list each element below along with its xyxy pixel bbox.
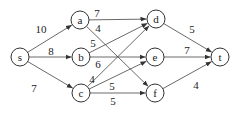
node-d: d xyxy=(147,10,165,28)
edge-capacity-label-c-d: 4 xyxy=(89,73,95,85)
edge-capacity-label-d-t: 5 xyxy=(189,23,195,35)
edge-capacity-label-e-t: 7 xyxy=(184,44,190,56)
node-label-e: e xyxy=(153,51,158,63)
node-b: b xyxy=(72,48,90,66)
edge-capacity-label-c-f: 5 xyxy=(110,95,116,107)
edge-capacity-label-c-e: 5 xyxy=(109,80,115,92)
node-s: s xyxy=(11,48,29,66)
edge-c-d xyxy=(87,26,149,87)
edge-capacity-label-b-d: 5 xyxy=(90,37,96,49)
node-e: e xyxy=(146,48,164,66)
edge-capacity-label-s-b: 8 xyxy=(48,45,54,57)
node-label-s: s xyxy=(18,51,22,63)
edge-f-t xyxy=(163,62,212,89)
node-f: f xyxy=(146,84,164,102)
edge-capacity-label-a-f: 4 xyxy=(95,22,101,34)
node-label-c: c xyxy=(79,87,84,99)
edge-capacity-label-s-a: 10 xyxy=(36,23,48,35)
edge-capacity-label-a-d: 7 xyxy=(94,7,100,19)
node-label-t: t xyxy=(218,51,221,63)
edges-layer xyxy=(28,19,212,93)
node-label-d: d xyxy=(153,13,159,25)
edge-a-d xyxy=(89,19,147,20)
node-t: t xyxy=(211,48,229,66)
node-c: c xyxy=(72,84,90,102)
edge-capacity-label-b-e: 6 xyxy=(95,58,101,70)
flow-network-diagram: 10877456455574 sabcdeft xyxy=(0,0,241,118)
node-label-b: b xyxy=(78,51,84,63)
edge-capacity-label-s-c: 7 xyxy=(31,82,37,94)
node-label-f: f xyxy=(153,87,157,99)
node-a: a xyxy=(71,11,89,29)
edge-capacity-label-f-t: 4 xyxy=(193,79,199,91)
node-label-a: a xyxy=(78,14,83,26)
